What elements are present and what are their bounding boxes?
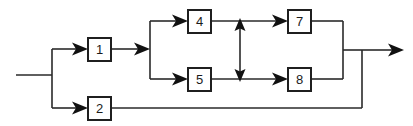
block-8[interactable]: 8 <box>288 68 311 91</box>
block-7-label: 7 <box>296 14 303 29</box>
block-2[interactable]: 2 <box>88 97 111 120</box>
block-2-label: 2 <box>96 101 103 116</box>
block-1-label: 1 <box>96 42 103 57</box>
block-4-label: 4 <box>196 14 203 29</box>
block-5-label: 5 <box>196 72 203 87</box>
block-8-label: 8 <box>296 72 303 87</box>
block-7[interactable]: 7 <box>288 10 311 33</box>
block-4[interactable]: 4 <box>188 10 211 33</box>
block-diagram-svg: 1 2 4 5 7 8 <box>0 0 413 126</box>
block-5[interactable]: 5 <box>188 68 211 91</box>
block-diagram-canvas: 1 2 4 5 7 8 <box>0 0 413 126</box>
block-1[interactable]: 1 <box>88 38 111 61</box>
